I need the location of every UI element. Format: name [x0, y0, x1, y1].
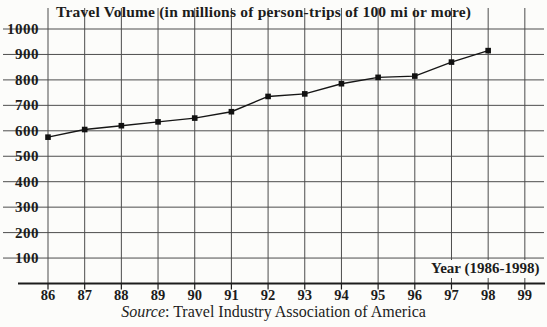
source-caption: Source: Travel Industry Association of A… — [0, 303, 547, 321]
x-tick-label: 96 — [408, 287, 423, 303]
y-tick-label: 600 — [15, 123, 39, 139]
data-point-marker — [449, 59, 455, 65]
data-point-marker — [119, 123, 125, 129]
x-tick-label: 86 — [41, 287, 56, 303]
data-point-marker — [375, 75, 381, 81]
x-tick-label: 87 — [77, 287, 92, 303]
x-axis-title: Year (1986-1998) — [428, 260, 541, 278]
x-tick-label: 91 — [224, 287, 239, 303]
x-tick-label: 92 — [261, 287, 276, 303]
y-tick-label: 300 — [15, 199, 39, 215]
y-tick-label: 200 — [15, 225, 39, 241]
x-tick-label: 89 — [151, 287, 166, 303]
source-caption-prefix: Source — [121, 303, 165, 320]
y-tick-label: 500 — [15, 148, 39, 164]
travel-volume-chart: 1002003004005006007008009001000868788899… — [0, 0, 547, 327]
data-point-marker — [339, 81, 345, 87]
x-tick-label: 98 — [481, 287, 496, 303]
data-point-marker — [82, 127, 88, 133]
data-point-marker — [192, 115, 198, 121]
data-point-marker — [45, 134, 51, 140]
x-tick-label: 93 — [298, 287, 313, 303]
y-tick-label: 900 — [15, 46, 39, 62]
data-point-marker — [265, 94, 271, 100]
data-point-marker — [485, 48, 491, 54]
x-tick-label: 90 — [187, 287, 202, 303]
x-tick-label: 99 — [518, 287, 533, 303]
y-tick-label: 400 — [15, 174, 39, 190]
y-tick-label: 1000 — [7, 21, 39, 37]
data-point-marker — [229, 109, 235, 115]
x-tick-label: 97 — [444, 287, 459, 303]
chart-title: Travel Volume (in millions of person-tri… — [56, 3, 471, 21]
x-tick-label: 95 — [371, 287, 386, 303]
y-tick-label: 700 — [15, 97, 39, 113]
y-tick-label: 100 — [15, 250, 39, 266]
data-point-marker — [155, 119, 161, 125]
x-tick-label: 94 — [334, 287, 349, 303]
data-point-marker — [302, 91, 308, 97]
data-point-marker — [412, 73, 418, 79]
y-tick-label: 800 — [15, 72, 39, 88]
x-tick-label: 88 — [114, 287, 129, 303]
source-caption-text: : Travel Industry Association of America — [165, 303, 426, 320]
